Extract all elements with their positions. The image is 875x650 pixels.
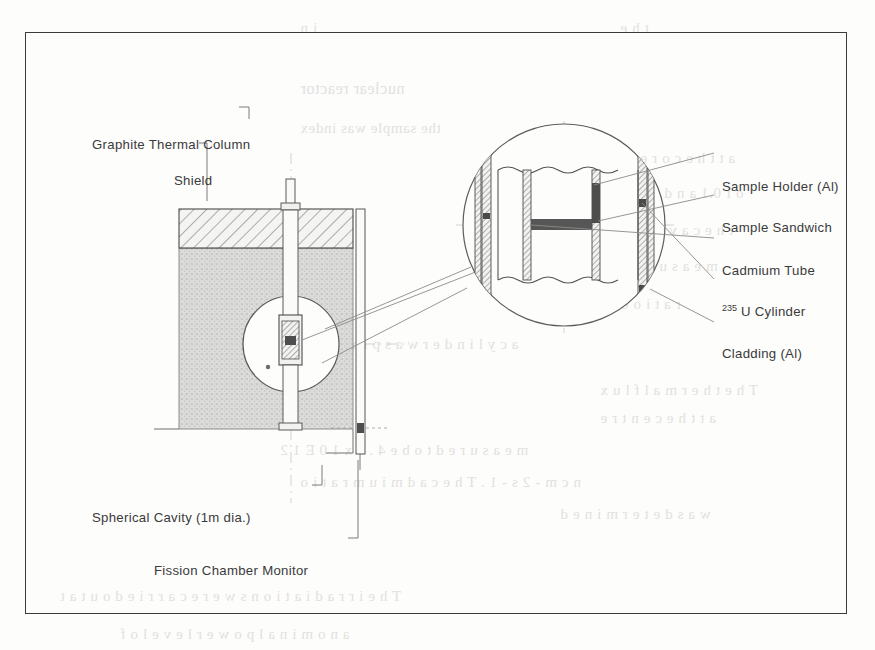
label-fission-chamber-monitor: Fission Chamber Monitor <box>154 563 308 578</box>
label-shield: Shield <box>174 173 212 188</box>
label-cadmium-tube: Cadmium Tube <box>722 263 815 278</box>
sample-detail-callout <box>463 103 714 347</box>
label-cladding: Cladding (Al) <box>722 346 802 361</box>
u235-text: U Cylinder <box>737 304 806 319</box>
label-sample-sandwich: Sample Sandwich <box>722 220 832 235</box>
figure-frame: Graphite Thermal Column Shield Spherical… <box>25 32 847 614</box>
bleed-through-line: a n o m i n a l p o w e r l e v e l o f <box>120 626 350 643</box>
label-u235-cylinder: 235 U Cylinder <box>722 303 806 319</box>
label-spherical-cavity: Spherical Cavity (1m dia.) <box>92 510 251 525</box>
figure-plate: Graphite Thermal Column Shield Spherical… <box>26 33 846 613</box>
label-sample-holder: Sample Holder (Al) <box>722 179 839 194</box>
shield-slab <box>179 209 353 248</box>
reactor-cross-section-drawing <box>26 33 846 613</box>
label-graphite-thermal-column: Graphite Thermal Column <box>92 137 250 152</box>
u235-superscript: 235 <box>722 303 737 313</box>
